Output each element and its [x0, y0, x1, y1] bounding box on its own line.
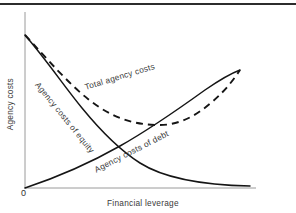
agency-costs-chart: Agency costs Financial leverage 0 Total …: [0, 0, 296, 213]
origin-label: 0: [21, 189, 26, 198]
chart-plot-area: [0, 0, 296, 213]
curve-agency-costs-of-debt: [25, 70, 240, 188]
x-axis-label: Financial leverage: [107, 199, 179, 207]
y-axis-label: Agency costs: [6, 73, 14, 135]
